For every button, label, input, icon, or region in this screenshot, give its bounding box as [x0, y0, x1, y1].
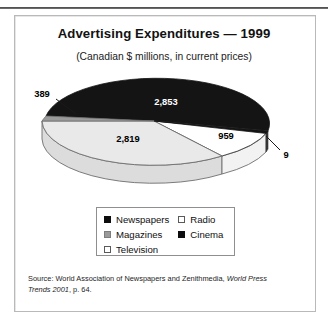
legend-item-cinema[interactable]: Cinema	[178, 228, 223, 241]
pie-value-radio: 959	[218, 130, 234, 141]
legend-swatch-television	[104, 246, 111, 253]
legend-label-television: Television	[116, 245, 158, 255]
legend-column-right: Radio Cinema	[178, 213, 223, 256]
pie-value-television: 2,819	[116, 133, 139, 144]
pie-value-cinema: 9	[283, 149, 288, 160]
legend-item-radio[interactable]: Radio	[178, 213, 223, 226]
pie-value-magazines: 389	[34, 88, 50, 99]
legend-item-magazines[interactable]: Magazines	[104, 228, 169, 241]
legend-label-newspapers: Newspapers	[116, 215, 169, 225]
source-prefix: Source: World Association of Newspapers …	[28, 274, 227, 283]
legend-column-left: Newspapers Magazines Television	[104, 213, 169, 256]
legend-label-cinema: Cinema	[190, 230, 223, 240]
legend-swatch-magazines	[104, 231, 111, 238]
top-divider-rule	[0, 7, 328, 9]
legend-label-radio: Radio	[190, 215, 215, 225]
page-title: Advertising Expenditures — 1999	[0, 26, 328, 41]
pie-chart-svg: 2,853 959 9 2,819 389	[14, 72, 316, 200]
legend-item-television[interactable]: Television	[104, 243, 169, 256]
figure-container: Advertising Expenditures — 1999 (Canadia…	[0, 0, 328, 328]
pie-value-newspapers: 2,853	[154, 96, 177, 107]
source-suffix: , p. 64.	[69, 285, 92, 294]
legend-swatch-radio	[178, 216, 185, 223]
figure-subtitle: (Canadian $ millions, in current prices)	[0, 51, 328, 62]
legend-box: Newspapers Magazines Television Radio	[96, 207, 235, 256]
pie-slices	[42, 78, 270, 165]
pie-chart: 2,853 959 9 2,819 389	[14, 72, 316, 200]
legend-label-magazines: Magazines	[116, 230, 162, 240]
source-note: Source: World Association of Newspapers …	[28, 274, 290, 295]
legend-swatch-newspapers	[104, 216, 111, 223]
pie-side-cinema	[266, 131, 268, 152]
legend-item-newspapers[interactable]: Newspapers	[104, 213, 169, 226]
legend-swatch-cinema	[178, 231, 185, 238]
